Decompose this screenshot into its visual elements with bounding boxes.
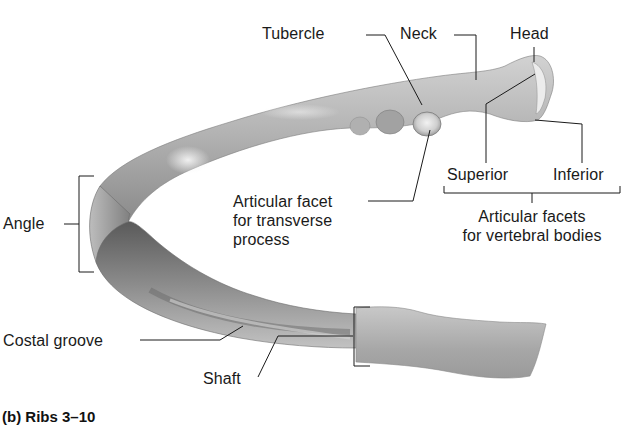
- tubercle-bump: [376, 110, 404, 134]
- label-shaft: Shaft: [203, 369, 241, 388]
- label-articular-facet-transverse-3: process: [233, 230, 290, 249]
- label-neck: Neck: [400, 24, 437, 43]
- rib-sternal-end: [356, 307, 546, 378]
- label-articular-facets-vertebral-2: for vertebral bodies: [436, 226, 624, 245]
- figure-caption: (b) Ribs 3–10: [2, 408, 95, 425]
- leader-transverse-facet: [368, 130, 430, 201]
- label-angle: Angle: [3, 214, 44, 233]
- label-superior: Superior: [447, 165, 508, 184]
- bracket-vertebral-facets: [444, 186, 620, 193]
- label-tubercle: Tubercle: [262, 24, 324, 43]
- label-head: Head: [510, 24, 549, 43]
- label-articular-facets-vertebral-1: Articular facets: [442, 207, 622, 226]
- label-costal-groove: Costal groove: [3, 331, 103, 350]
- label-inferior: Inferior: [553, 165, 604, 184]
- label-articular-facet-transverse-1: Articular facet: [233, 192, 332, 211]
- transverse-facet: [413, 112, 441, 136]
- label-articular-facet-transverse-2: for transverse: [233, 211, 332, 230]
- leader-inferior: [535, 120, 582, 163]
